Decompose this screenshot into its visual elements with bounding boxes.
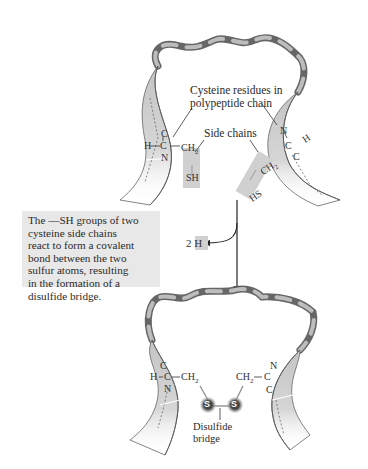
leader-sidechain-right bbox=[250, 140, 258, 152]
top-left-n: N bbox=[161, 152, 168, 163]
bottom-right-ch2: CH2 bbox=[236, 371, 253, 385]
top-left-ch2: CH2 bbox=[181, 142, 198, 156]
bottom-right-n: N bbox=[270, 360, 277, 371]
bottom-left-strand bbox=[130, 340, 178, 455]
bottom-left-ch2: CH2 bbox=[181, 371, 198, 385]
top-left-sh: SH bbox=[186, 172, 199, 183]
caption-line-3: react to form a covalent bbox=[28, 239, 156, 252]
top-right-c-alpha: C bbox=[285, 140, 292, 151]
caption-box: The —SH groups of two cysteine side chai… bbox=[22, 211, 160, 287]
leader-cysteine-left bbox=[173, 108, 192, 137]
caption-line-5: sulfur atoms, resulting bbox=[28, 264, 156, 277]
label-cysteine-line2: polypeptide chain bbox=[190, 97, 272, 109]
byproduct-2h: 2 H bbox=[186, 237, 202, 249]
top-polypeptide bbox=[120, 38, 340, 206]
bottom-left-h: H bbox=[150, 371, 157, 382]
bottom-left-n: N bbox=[164, 383, 171, 394]
bottom-left-c-alpha: C bbox=[164, 371, 171, 382]
top-left-h: H bbox=[144, 140, 151, 151]
bottom-right-c-bottom: C bbox=[266, 384, 273, 395]
top-right-n: N bbox=[280, 125, 287, 136]
byproduct-arrow bbox=[205, 223, 237, 243]
label-disulfide-line1: Disulfide bbox=[193, 421, 232, 433]
label-side-chains: Side chains bbox=[204, 127, 257, 139]
top-left-c-top: C bbox=[161, 128, 168, 139]
bottom-left-c-top: C bbox=[160, 360, 167, 371]
caption-line-7: disulfide bridge. bbox=[28, 290, 156, 303]
label-disulfide-line2: bridge bbox=[193, 433, 220, 445]
top-right-strand bbox=[268, 92, 340, 206]
caption-line-1: The —SH groups of two bbox=[28, 214, 156, 227]
bottom-right-strand bbox=[272, 350, 310, 450]
bottom-right-c-alpha: C bbox=[264, 371, 271, 382]
sulfur-left-label: S bbox=[204, 399, 210, 409]
label-cysteine-line1: Cysteine residues in bbox=[190, 84, 283, 96]
caption-line-4: bond between the two bbox=[28, 252, 156, 265]
top-left-c-alpha: C bbox=[160, 140, 167, 151]
sulfur-right-label: S bbox=[231, 399, 237, 409]
caption-line-2: cysteine side chains bbox=[28, 227, 156, 240]
top-right-c-bottom: C bbox=[293, 151, 300, 162]
caption-line-6: in the formation of a bbox=[28, 277, 156, 290]
